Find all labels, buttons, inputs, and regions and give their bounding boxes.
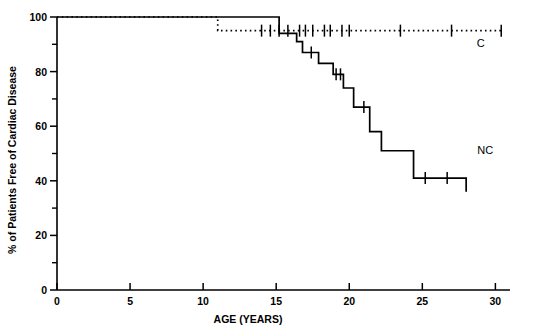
y-tick-label: 100 — [29, 11, 47, 23]
x-axis-label: AGE (YEARS) — [214, 313, 283, 325]
series-label-c: C — [477, 37, 485, 49]
y-tick-label: 60 — [35, 120, 47, 132]
x-tick-label: 30 — [490, 295, 502, 307]
y-axis-ticks: 020406080100 — [29, 11, 57, 296]
x-tick-label: 5 — [127, 295, 133, 307]
y-tick-label: 80 — [35, 66, 47, 78]
y-axis-label: % of Patients Free of Cardiac Disease — [6, 66, 18, 254]
series-nc-curve — [57, 17, 466, 192]
series-label-nc: NC — [477, 144, 493, 156]
y-tick-label: 20 — [35, 229, 47, 241]
y-tick-label: 0 — [41, 284, 47, 296]
kaplan-meier-figure: % of Patients Free of Cardiac Disease AG… — [0, 0, 537, 334]
x-tick-label: 0 — [54, 295, 60, 307]
x-tick-label: 10 — [197, 295, 209, 307]
y-tick-label: 40 — [35, 175, 47, 187]
axis-lines — [57, 17, 510, 290]
x-tick-label: 25 — [416, 295, 428, 307]
x-tick-label: 20 — [343, 295, 355, 307]
x-axis-ticks: 051015202530 — [54, 283, 501, 307]
series-path-nc — [57, 17, 466, 192]
plot-canvas: % of Patients Free of Cardiac Disease AG… — [0, 0, 537, 334]
x-tick-label: 15 — [270, 295, 282, 307]
